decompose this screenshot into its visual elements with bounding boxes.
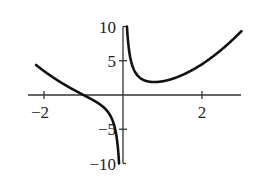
x-tick-label: −2 (31, 103, 49, 122)
curve-right-branch (127, 27, 242, 83)
y-tick-label: −10 (89, 155, 116, 174)
y-tick-label: 5 (108, 52, 117, 71)
function-plot: −22105−5−10 (0, 0, 255, 177)
x-tick-label: 2 (198, 103, 207, 122)
y-tick-label: 10 (99, 18, 116, 37)
axes (28, 27, 241, 164)
